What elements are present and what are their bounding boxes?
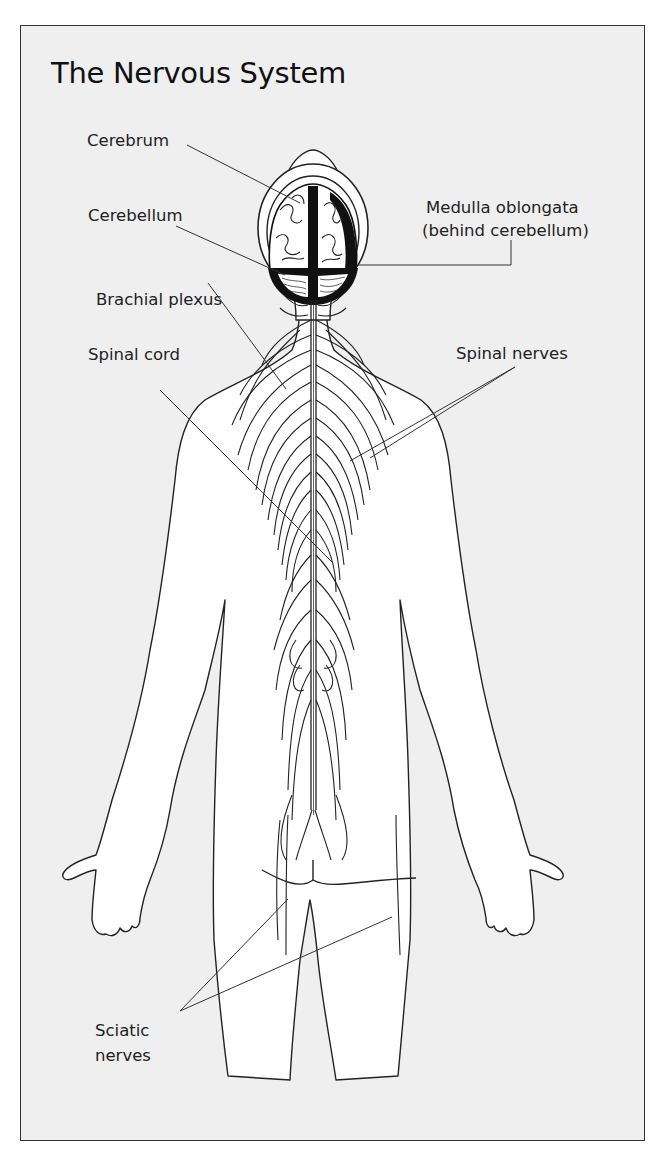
label-brachial-plexus: Brachial plexus xyxy=(96,289,222,311)
label-sciatic-line2: nerves xyxy=(95,1045,151,1067)
label-cerebrum: Cerebrum xyxy=(87,130,169,152)
label-spinal-cord: Spinal cord xyxy=(88,344,180,366)
label-spinal-nerves: Spinal nerves xyxy=(456,343,568,365)
label-medulla-line2: (behind cerebellum) xyxy=(422,220,589,242)
brain xyxy=(258,164,368,305)
nervous-system-illustration xyxy=(0,0,661,1156)
label-medulla-line1: Medulla oblongata xyxy=(426,197,579,219)
label-cerebellum: Cerebellum xyxy=(88,205,183,227)
label-sciatic-line1: Sciatic xyxy=(95,1020,149,1042)
